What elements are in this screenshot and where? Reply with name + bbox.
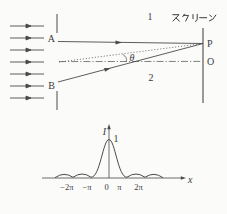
angle-arc <box>123 54 127 61</box>
intensity-axis-label: I <box>102 126 107 137</box>
peak-value-label: 1 <box>114 133 119 144</box>
graph-y-axis-arrowhead <box>107 124 111 129</box>
katakana-ri <box>193 14 197 21</box>
plane-wave-arrow <box>10 72 44 76</box>
plane-wave-arrow <box>10 84 44 88</box>
tick-label-negpi: −π <box>82 182 92 192</box>
angle-theta-label: θ <box>130 52 135 63</box>
tick-label-pi: π <box>117 182 122 192</box>
tick-label-zero: 0 <box>104 182 108 192</box>
x-tick-labels: −2π −π 0 π 2π <box>60 182 143 192</box>
katakana-ku <box>183 14 189 21</box>
ray2-label: 2 <box>149 72 154 83</box>
ray1-arrowhead <box>115 40 122 44</box>
katakana-n <box>210 15 216 21</box>
plane-wave-arrow <box>10 60 44 64</box>
ray1-label: 1 <box>148 11 153 22</box>
plane-wave-arrow <box>10 36 44 40</box>
plane-wave-arrow <box>10 96 44 100</box>
intensity-graph: I 1 x −2π −π 0 π 2π <box>42 124 193 192</box>
screen-label: スクリーン <box>173 14 216 21</box>
tick-label-neg2pi: −2π <box>60 182 74 192</box>
plane-wave-arrow <box>10 48 44 52</box>
ray2-arrowhead <box>104 66 111 72</box>
katakana-su <box>173 15 180 21</box>
point-b-label: B <box>48 80 55 91</box>
point-a-label: A <box>48 33 56 44</box>
ray1-line <box>58 42 203 44</box>
diffraction-figure: A B 1 2 θ P O スクリーン I 1 x −2π <box>0 0 227 214</box>
point-p-label: P <box>207 38 213 49</box>
x-axis-label: x <box>187 174 193 185</box>
plane-wave-arrow <box>10 24 44 28</box>
point-o-label: O <box>207 56 214 67</box>
plane-wave-arrows <box>10 24 44 100</box>
tick-label-2pi: 2π <box>134 182 143 192</box>
graph-x-axis-arrowhead <box>181 176 186 180</box>
diffraction-svg: A B 1 2 θ P O スクリーン I 1 x −2π <box>0 0 227 214</box>
